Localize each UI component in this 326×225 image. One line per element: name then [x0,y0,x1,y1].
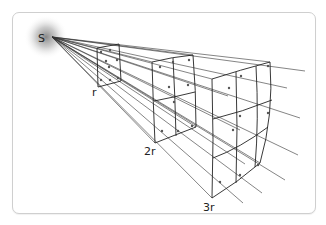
source-glow [24,15,68,59]
distance-label-r: r [92,86,97,99]
inverse-square-diagram: S r 2r 3r [0,0,326,225]
distance-label-3r: 3r [203,201,215,214]
light-rays [52,37,305,203]
surface-3r [212,62,272,198]
source-label: S [38,32,45,45]
distance-label-2r: 2r [144,145,156,158]
